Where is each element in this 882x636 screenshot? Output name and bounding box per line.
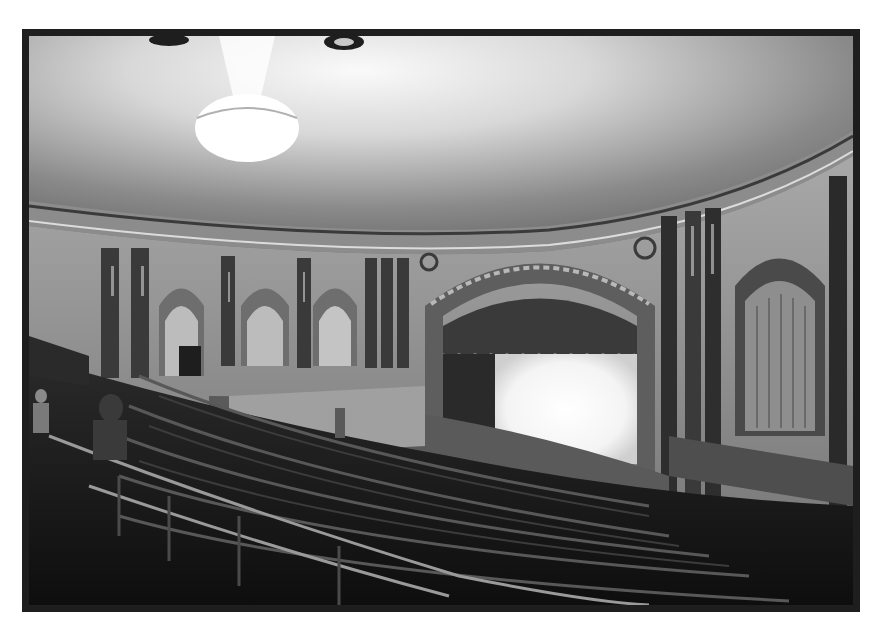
photo-frame: [22, 29, 860, 612]
theater-scene: [29, 36, 853, 605]
arched-niches: [159, 289, 357, 377]
theater-photo: [29, 36, 853, 605]
